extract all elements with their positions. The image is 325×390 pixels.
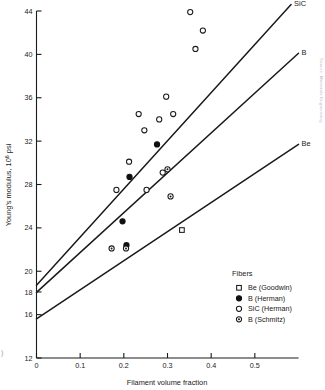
trend-line-label-sic: SiC bbox=[294, 0, 307, 8]
y-tick-label: 16 bbox=[25, 310, 33, 319]
y-axis-title-text: Young's modulus, 106 psi bbox=[4, 143, 13, 226]
y-tick-label: 20 bbox=[25, 267, 33, 276]
figure-container: 12162024283236404418 00.10.20.30.40.5 Yo… bbox=[0, 0, 325, 390]
y-axis-title: Young's modulus, 106 psi bbox=[4, 143, 13, 226]
data-points-group bbox=[109, 9, 205, 251]
legend-marker bbox=[237, 285, 242, 290]
x-tick-label: 0.5 bbox=[250, 361, 260, 370]
series-sic-herman- bbox=[114, 9, 206, 192]
legend-marker bbox=[236, 306, 241, 311]
x-axis-ticks: 00.10.20.30.40.5 bbox=[35, 353, 260, 370]
y-tick-label-extra: 18 bbox=[25, 288, 33, 297]
series-be-goodwin- bbox=[180, 228, 185, 233]
data-point bbox=[157, 117, 162, 122]
x-tick-label: 0 bbox=[35, 361, 39, 370]
data-point bbox=[160, 170, 165, 175]
data-point-center-dot bbox=[170, 195, 172, 197]
chart-legend: Fibers Be (Goodwin)B (Herman)SiC (Herman… bbox=[232, 269, 292, 324]
page-corner-mark: ) bbox=[1, 349, 3, 356]
legend-label: SiC (Herman) bbox=[248, 304, 292, 313]
trend-line-label-b: B bbox=[302, 48, 307, 57]
y-tick-label: 40 bbox=[25, 50, 33, 59]
scatter-chart: 12162024283236404418 00.10.20.30.40.5 Yo… bbox=[0, 0, 325, 390]
data-point bbox=[120, 219, 125, 224]
data-point bbox=[180, 228, 185, 233]
y-tick-label: 24 bbox=[25, 223, 33, 232]
data-point bbox=[164, 94, 169, 99]
y-tick-label: 12 bbox=[25, 354, 33, 363]
legend-label: Be (Goodwin) bbox=[248, 283, 292, 292]
x-tick-label: 0.4 bbox=[206, 361, 216, 370]
data-point bbox=[193, 46, 198, 51]
data-point-center-dot bbox=[167, 168, 169, 170]
y-tick-label: 44 bbox=[25, 7, 33, 16]
data-point bbox=[171, 111, 176, 116]
trend-line-b bbox=[37, 53, 299, 292]
x-tick-label: 0.3 bbox=[163, 361, 173, 370]
data-point bbox=[127, 174, 132, 179]
x-axis-title-text: Filament volume fraction bbox=[127, 378, 208, 387]
data-point bbox=[114, 187, 119, 192]
trend-line-label-be: Be bbox=[302, 139, 311, 148]
data-point-center-dot bbox=[125, 247, 127, 249]
x-tick-label: 0.2 bbox=[119, 361, 129, 370]
legend-label: B (Herman) bbox=[248, 294, 285, 303]
legend-label: B (Schmitz) bbox=[248, 315, 285, 324]
series-b-herman- bbox=[120, 142, 160, 248]
data-point bbox=[126, 159, 131, 164]
legend-marker bbox=[236, 296, 241, 301]
data-point-center-dot bbox=[111, 247, 113, 249]
data-point bbox=[142, 128, 147, 133]
y-tick-label: 36 bbox=[25, 93, 33, 102]
trend-lines-group: SiCBBe bbox=[37, 0, 311, 319]
data-point bbox=[154, 142, 159, 147]
data-point bbox=[188, 9, 193, 14]
data-point bbox=[136, 111, 141, 116]
series-b-schmitz- bbox=[109, 167, 173, 251]
x-tick-label: 0.1 bbox=[75, 361, 85, 370]
y-tick-label: 32 bbox=[25, 137, 33, 146]
data-point bbox=[144, 187, 149, 192]
trend-line-sic bbox=[37, 4, 292, 285]
y-tick-label: 28 bbox=[25, 180, 33, 189]
source-credit-watermark: Source: Materials Engineering bbox=[319, 58, 324, 123]
legend-marker-center-dot bbox=[238, 318, 240, 320]
legend-entries: Be (Goodwin)B (Herman)SiC (Herman)B (Sch… bbox=[236, 283, 292, 324]
y-axis-ticks: 12162024283236404418 bbox=[25, 7, 42, 363]
data-point bbox=[200, 28, 205, 33]
legend-title: Fibers bbox=[232, 269, 253, 278]
